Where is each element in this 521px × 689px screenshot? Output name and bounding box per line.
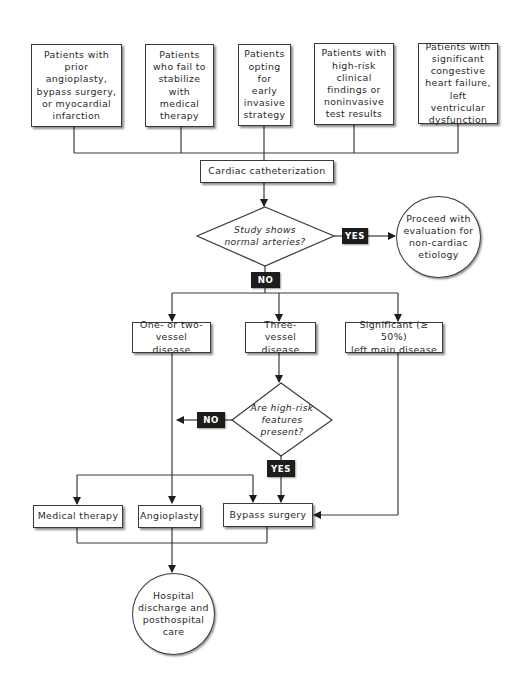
catheterization-label: Cardiac catheterization [208, 165, 325, 177]
disease-box-three-vessel: Three-vessel disease [245, 322, 316, 353]
decision-question: Study shows normal arteries? [224, 224, 305, 248]
entry-box-label: Patients opting for early invasive strat… [244, 48, 286, 121]
no-label: NO [203, 415, 219, 425]
decision-question: Are high-risk features present? [251, 402, 314, 439]
disease-box-one-two-vessel: One- or two- vessel disease [132, 322, 211, 353]
entry-box-fail-to-stabilize: Patients who fail to stabilize with medi… [145, 44, 214, 127]
outcome-circle-hospital-discharge: Hospital discharge and posthospital care [132, 573, 215, 655]
entry-box-heart-failure: Patients with significant congestive hea… [418, 43, 498, 124]
outcome-label: Hospital discharge and posthospital care [138, 590, 209, 639]
decision-normal-arteries-text: Study shows normal arteries? [210, 212, 320, 260]
disease-label: Three-vessel disease [249, 319, 312, 356]
disease-box-left-main: Significant (≥ 50%) left main disease [345, 322, 443, 353]
outcome-circle-non-cardiac: Proceed with evaluation for non-cardiac … [396, 196, 481, 278]
no-tag-high-risk: NO [197, 412, 225, 428]
entry-box-label: Patients who fail to stabilize with medi… [153, 49, 206, 122]
entry-box-early-invasive: Patients opting for early invasive strat… [238, 44, 291, 126]
yes-label: YES [345, 231, 365, 241]
no-tag-normal-arteries: NO [251, 272, 280, 288]
yes-label: YES [271, 464, 291, 474]
disease-label: One- or two- vessel disease [136, 319, 207, 356]
treatment-label: Angioplasty [140, 510, 199, 522]
treatment-label: Bypass surgery [230, 509, 307, 521]
entry-box-high-risk-findings: Patients with high-risk clinical finding… [314, 43, 394, 125]
decision-high-risk-text: Are high-risk features present? [240, 398, 324, 442]
no-label: NO [258, 275, 274, 285]
entry-box-prior-revascularization: Patients with prior angioplasty, bypass … [31, 44, 122, 127]
treatment-box-angioplasty: Angioplasty [138, 505, 201, 528]
outcome-label: Proceed with evaluation for non-cardiac … [403, 213, 473, 262]
disease-label: Significant (≥ 50%) left main disease [349, 319, 439, 356]
treatment-box-medical-therapy: Medical therapy [33, 505, 123, 528]
treatment-box-bypass-surgery: Bypass surgery [223, 503, 313, 527]
entry-box-label: Patients with prior angioplasty, bypass … [37, 49, 117, 122]
cardiac-catheterization-box: Cardiac catheterization [200, 160, 334, 183]
entry-box-label: Patients with significant congestive hea… [422, 41, 494, 126]
entry-box-label: Patients with high-risk clinical finding… [322, 47, 387, 120]
treatment-label: Medical therapy [38, 510, 119, 522]
yes-tag-high-risk: YES [267, 460, 295, 477]
yes-tag-normal-arteries: YES [342, 228, 368, 244]
